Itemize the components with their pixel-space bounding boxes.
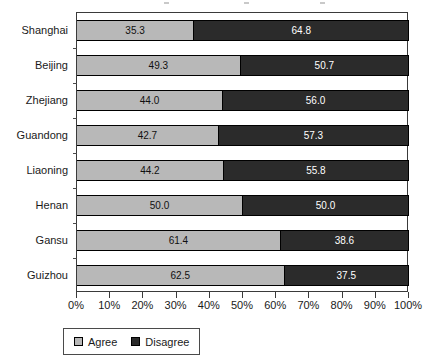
category-label-guandong: Guandong: [0, 124, 72, 145]
bar-segment-disagree: 37.5: [285, 265, 410, 286]
y-axis-tick: [73, 153, 77, 154]
category-label-liaoning: Liaoning: [0, 159, 72, 180]
legend-swatch-icon: [131, 337, 140, 346]
scan-artifact: [244, 2, 249, 4]
bar-segment-disagree: 56.0: [223, 90, 409, 111]
x-axis-tick: [375, 292, 376, 298]
y-axis-tick: [73, 83, 77, 84]
bar-row: 50.050.0: [77, 195, 407, 216]
legend-label: Agree: [88, 336, 117, 348]
category-label-shanghai: Shanghai: [0, 19, 72, 40]
x-axis-tick: [109, 292, 110, 298]
y-axis-tick: [73, 223, 77, 224]
bar-row: 62.537.5: [77, 265, 407, 286]
x-axis-tick: [242, 292, 243, 298]
scan-artifact: [320, 2, 325, 4]
bar-segment-agree: 49.3: [77, 55, 241, 76]
bar-segment-disagree: 50.0: [243, 195, 409, 216]
y-axis-tick: [73, 188, 77, 189]
y-axis-tick: [73, 258, 77, 259]
legend-swatch-icon: [74, 337, 83, 346]
x-axis-tick: [76, 292, 77, 298]
x-axis-tick: [275, 292, 276, 298]
bar-segment-disagree: 55.8: [224, 160, 409, 181]
bar-segment-agree: 35.3: [77, 20, 194, 41]
bar-row: 44.056.0: [77, 90, 407, 111]
bar-segment-disagree: 50.7: [241, 55, 409, 76]
bar-segment-agree: 62.5: [77, 265, 285, 286]
x-axis-label: 100%: [388, 299, 428, 311]
x-axis-tick: [142, 292, 143, 298]
bar-segment-disagree: 38.6: [281, 230, 409, 251]
category-label-guizhou: Guizhou: [0, 264, 72, 285]
y-axis-tick: [73, 118, 77, 119]
x-axis-tick: [308, 292, 309, 298]
legend-item-disagree: Disagree: [131, 336, 189, 348]
category-label-zhejiang: Zhejiang: [0, 89, 72, 110]
bar-row: 61.438.6: [77, 230, 407, 251]
bars-container: 35.364.849.350.744.056.042.757.344.255.8…: [77, 13, 407, 291]
plot-area: 35.364.849.350.744.056.042.757.344.255.8…: [76, 12, 408, 292]
chart-legend: AgreeDisagree: [63, 328, 200, 355]
bar-row: 35.364.8: [77, 20, 407, 41]
category-label-gansu: Gansu: [0, 229, 72, 250]
bar-segment-agree: 50.0: [77, 195, 243, 216]
stacked-bar-chart: ShanghaiBeijingZhejiangGuandongLiaoningH…: [0, 0, 430, 364]
legend-label: Disagree: [145, 336, 189, 348]
bar-segment-disagree: 64.8: [194, 20, 409, 41]
bar-segment-agree: 42.7: [77, 125, 219, 146]
legend-item-agree: Agree: [74, 336, 117, 348]
x-axis-tick: [176, 292, 177, 298]
category-label-beijing: Beijing: [0, 54, 72, 75]
bar-row: 42.757.3: [77, 125, 407, 146]
y-axis-tick: [73, 48, 77, 49]
bar-row: 49.350.7: [77, 55, 407, 76]
bar-segment-agree: 44.2: [77, 160, 224, 181]
bar-row: 44.255.8: [77, 160, 407, 181]
bar-segment-agree: 44.0: [77, 90, 223, 111]
x-axis-tick: [342, 292, 343, 298]
x-axis-tick: [408, 292, 409, 298]
bar-segment-disagree: 57.3: [219, 125, 409, 146]
bar-segment-agree: 61.4: [77, 230, 281, 251]
x-axis-tick: [209, 292, 210, 298]
category-label-henan: Henan: [0, 194, 72, 215]
scan-artifact: [164, 2, 169, 4]
